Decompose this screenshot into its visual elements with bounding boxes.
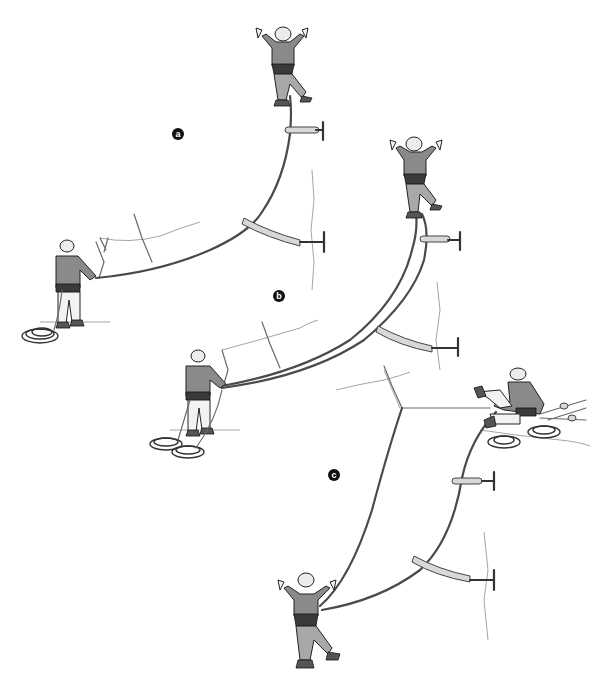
panel-label-a: a (172, 128, 184, 140)
panel-c: c (278, 366, 590, 668)
quickdraw-lower-b (376, 326, 458, 356)
quickdraw-lower-c (412, 556, 494, 590)
panel-label-b: b (273, 290, 285, 302)
quickdraw-upper-c (452, 472, 494, 490)
belayer-seated-c (474, 368, 586, 448)
rope-b-1 (222, 214, 417, 386)
rope-c-1 (320, 408, 402, 606)
panel-label-c: c (328, 469, 340, 481)
leader-climber-a (256, 27, 312, 106)
leader-climber-b (390, 137, 442, 218)
belayer-b (150, 350, 226, 458)
hand-left (256, 28, 262, 38)
belayer-a (22, 240, 96, 343)
rope-a (96, 96, 291, 278)
panel-b: b (150, 137, 460, 458)
svg-text:c: c (331, 470, 336, 480)
belay-illustration: a (0, 0, 604, 686)
anchor-sling-c (384, 366, 402, 408)
anchor-sling-left (96, 242, 104, 278)
second-climber-c (278, 573, 340, 668)
svg-text:b: b (276, 291, 282, 301)
